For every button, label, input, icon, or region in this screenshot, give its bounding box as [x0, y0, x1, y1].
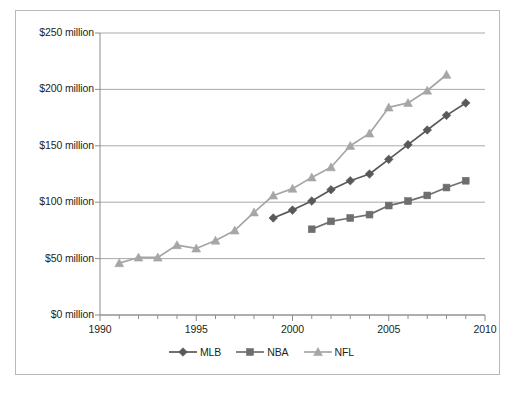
data-point: [385, 202, 392, 209]
legend-swatch-diamond-icon: [168, 345, 198, 359]
data-point: [211, 236, 220, 244]
series-line-nfl: [119, 75, 446, 263]
data-point: [347, 215, 354, 222]
data-point: [307, 197, 316, 206]
y-tick-label-150: $150 million: [18, 139, 94, 151]
data-point: [269, 214, 278, 223]
y-tick-label-50: $50 million: [18, 252, 94, 264]
data-point: [327, 185, 336, 194]
y-tick-label-0: $0 million: [18, 308, 94, 320]
data-point: [307, 173, 316, 181]
legend-swatch-square-icon: [235, 345, 265, 359]
data-point: [462, 177, 469, 184]
legend-entry-nfl[interactable]: NFL: [303, 345, 355, 359]
y-tick-label-200: $200 million: [18, 82, 94, 94]
legend-entry-mlb[interactable]: MLB: [168, 345, 221, 359]
data-point: [288, 184, 297, 192]
data-point: [346, 176, 355, 185]
x-tick-label-2000: 2000: [263, 323, 323, 335]
data-point: [308, 226, 315, 233]
series-line-mlb: [273, 103, 466, 218]
x-tick-label-2010: 2010: [455, 323, 515, 335]
data-point: [443, 184, 450, 191]
data-point: [288, 206, 297, 215]
legend-swatch-triangle-icon: [303, 345, 333, 359]
legend-entry-nba[interactable]: NBA: [235, 345, 288, 359]
legend-label-mlb: MLB: [200, 346, 221, 358]
y-tick-label-100: $100 million: [18, 195, 94, 207]
x-tick-label-2005: 2005: [359, 323, 419, 335]
chart-legend: MLBNBANFL: [0, 345, 522, 359]
data-point: [404, 99, 413, 107]
series-mlb: [269, 99, 470, 223]
legend-label-nba: NBA: [267, 346, 288, 358]
chart-container: $0 million$50 million$100 million$150 mi…: [0, 0, 522, 393]
data-point: [173, 241, 182, 249]
data-point: [442, 70, 451, 78]
y-tick-label-250: $250 million: [18, 26, 94, 38]
series-nfl: [115, 70, 451, 266]
data-point: [405, 198, 412, 205]
data-point: [366, 211, 373, 218]
data-point: [328, 218, 335, 225]
series-nba: [308, 177, 469, 232]
legend-label-nfl: NFL: [335, 346, 355, 358]
data-point: [424, 192, 431, 199]
x-tick-label-1990: 1990: [70, 323, 130, 335]
x-tick-label-1995: 1995: [166, 323, 226, 335]
data-point: [461, 99, 470, 108]
